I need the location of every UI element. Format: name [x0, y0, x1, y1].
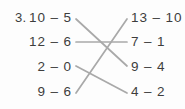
connection-line-3[interactable]: [76, 66, 127, 93]
connection-lines-layer: [0, 0, 185, 109]
matching-worksheet-problem: 3. 10 – 5 12 – 6 2 – 0 9 – 6 13 – 10 7 –…: [0, 0, 185, 109]
connection-line-4[interactable]: [76, 19, 127, 93]
